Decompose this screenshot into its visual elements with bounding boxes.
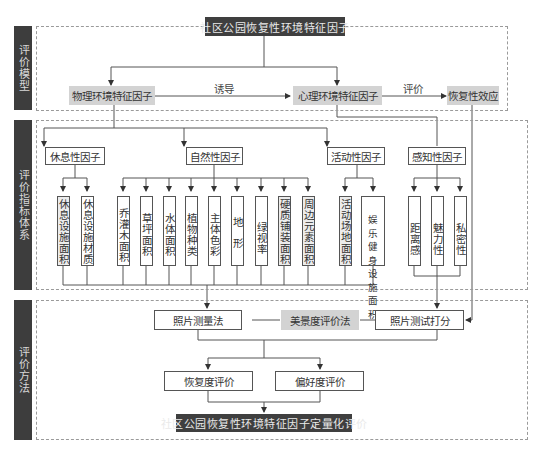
indicator-entertainment-fitness-area: 娱乐 健身 设施 面积 (361, 196, 385, 266)
indicator-rest-facility-area: 休息设施面积 (57, 196, 70, 266)
indicator-privacy: 私密性 (454, 196, 467, 266)
section-label-methods: 评价方法 (14, 300, 32, 440)
final-quantitative-evaluation: 社区公园恢复性环境特征因子定量化评价 (176, 414, 352, 432)
indicator-row: 健身 (368, 241, 378, 266)
indicator-lawn-area: 草坪面积 (140, 196, 153, 266)
physical-factor-box: 物理环境特征因子 (69, 86, 155, 105)
indicator-distance-sense: 距离感 (408, 196, 421, 266)
indicator-row: 设施 (368, 268, 378, 293)
indicator-water-area: 水体面积 (163, 196, 176, 266)
factor-nature: 自然性因子 (186, 147, 243, 165)
indicator-attractiveness: 魅力性 (431, 196, 444, 266)
factor-perception: 感知性因子 (408, 147, 466, 165)
induce-label: 诱导 (214, 81, 234, 96)
factor-activity: 活动性因子 (327, 147, 385, 165)
indicator-green-view-ratio: 绿视率 (255, 196, 268, 266)
indicator-hard-paving-area: 硬质铺装面积 (278, 196, 291, 266)
photo-score-method: 照片测试打分 (375, 310, 464, 330)
evaluate-label: 评价 (403, 81, 423, 96)
photo-measure-method: 照片测量法 (154, 310, 242, 330)
factor-rest: 休息性因子 (45, 147, 105, 165)
scenic-beauty-method: 美景度评价法 (281, 310, 359, 330)
evaluation-framework-diagram: 评价模型 评价指标体系 评价方法 社区公园恢复性环境特征因子 物理环境特征因子 … (0, 0, 544, 455)
restoration-evaluation: 恢复度评价 (164, 371, 253, 391)
indicator-plant-species: 植物种类 (185, 196, 198, 266)
indicator-surrounding-elements-area: 周边元素面积 (302, 196, 315, 266)
section-label-model: 评价模型 (14, 26, 32, 110)
preference-evaluation: 偏好度评价 (275, 371, 364, 391)
indicator-tree-shrub-area: 乔灌木面积 (117, 196, 130, 266)
indicator-terrain: 地形 (231, 196, 244, 266)
psychological-factor-box: 心理环境特征因子 (293, 86, 382, 105)
indicator-activity-site-area: 活动场地面积 (339, 196, 352, 266)
top-title-box: 社区公园恢复性环境特征因子 (205, 17, 345, 36)
indicator-rest-facility-material: 休息设施材质 (81, 196, 94, 266)
section-label-indicators: 评价指标体系 (14, 120, 32, 290)
indicator-main-color: 主体色彩 (208, 196, 221, 266)
indicator-row: 娱乐 (368, 214, 378, 239)
restorative-effect-box: 恢复性效应 (447, 86, 499, 105)
